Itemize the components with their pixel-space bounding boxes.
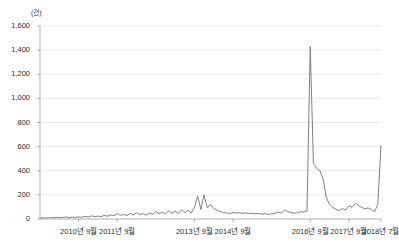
x-axis-tick-label: 2013년 9월: [176, 227, 213, 236]
y-axis-tick-label: 400: [4, 167, 30, 175]
x-axis-tick-label: 2014년 9월: [215, 227, 252, 236]
y-axis-tick-marks: [37, 26, 40, 219]
y-axis-tick-label: 800: [4, 119, 30, 127]
x-axis-tick-label: 2011년 9월: [99, 227, 135, 236]
x-axis-tick-label: 2018년 7월: [363, 227, 399, 236]
x-axis-tick-label: 2016년 9월: [292, 227, 329, 236]
x-axis-tick-label: 2010년 9월: [60, 227, 97, 236]
data-series-line: [40, 47, 381, 219]
y-axis-tick-label: 0: [4, 215, 30, 223]
y-axis-tick-label: 1,200: [4, 70, 30, 78]
y-axis-tick-label: 200: [4, 191, 30, 199]
y-axis-tick-label: 1,400: [4, 46, 30, 54]
grid-lines: [40, 26, 381, 195]
y-axis-tick-label: 1,000: [4, 94, 30, 102]
x-axis-tick-marks: [79, 219, 381, 222]
y-axis-tick-label: 1,600: [4, 22, 30, 30]
y-axis-tick-label: 600: [4, 143, 30, 151]
